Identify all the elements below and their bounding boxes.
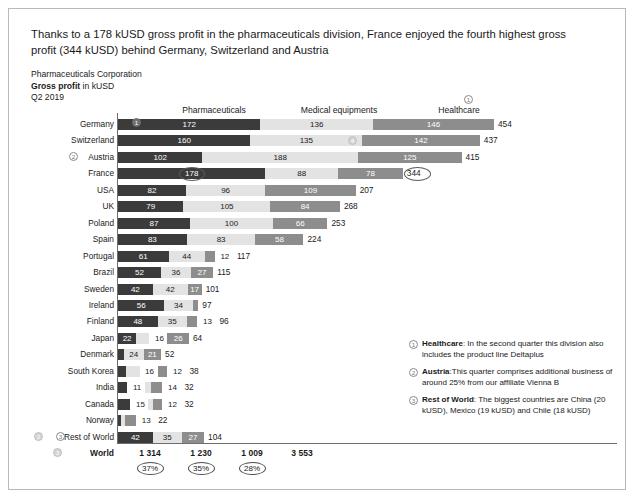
row-label-portugal: Portugal	[14, 251, 114, 262]
footnote-marker-3[interactable]: 3	[53, 448, 62, 457]
table-row: Portugal614412117	[9, 251, 627, 262]
world-row-label: World	[64, 447, 114, 459]
summary-separator-line	[117, 443, 617, 444]
footnote-title: Healthcare	[422, 339, 463, 348]
row-label-spain: Spain	[14, 234, 114, 245]
row-label-india: India	[14, 382, 114, 393]
segment-healthcare: 125	[358, 152, 462, 163]
world-total-pharmaceuticals: 1 314	[126, 447, 174, 459]
segment-medical-equipments	[136, 333, 149, 344]
table-row: USA8296109207	[9, 185, 627, 196]
segment-pharmaceuticals	[118, 366, 126, 377]
row-total: 64	[193, 333, 202, 344]
segment-value-label: 12	[169, 366, 185, 377]
segment-medical-equipments: 83	[187, 234, 256, 245]
row-total: 207	[360, 185, 374, 196]
row-label-france: France	[14, 168, 114, 179]
row-label-canada: Canada	[14, 399, 114, 410]
segment-healthcare	[151, 382, 163, 393]
row-total: 437	[484, 135, 498, 146]
segment-pharmaceuticals: 56	[118, 300, 164, 311]
segment-medical-equipments	[126, 366, 139, 377]
row-total: 268	[344, 201, 358, 212]
row-label-brazil: Brazil	[14, 267, 114, 278]
segment-healthcare: 78	[338, 168, 403, 179]
world-total-medical-equipments: 1 230	[177, 447, 225, 459]
segment-medical-equipments: 42	[153, 284, 188, 295]
segment-healthcare	[205, 251, 215, 262]
column-title-2: Medical equipments	[264, 105, 414, 115]
row-label-south-korea: South Korea	[14, 366, 114, 377]
segment-healthcare: 146	[373, 119, 494, 130]
world-grand-total: 3 553	[278, 447, 326, 459]
segment-pharmaceuticals	[118, 399, 130, 410]
table-row: Rest of World423527104	[9, 432, 627, 443]
row-total: 32	[184, 382, 193, 393]
segment-pharmaceuticals: 160	[118, 135, 250, 146]
row-total: 32	[184, 399, 193, 410]
row-total: 38	[189, 366, 198, 377]
segment-medical-equipments: 188	[202, 152, 358, 163]
segment-value-label: 13	[199, 316, 215, 327]
footnote-marker-1[interactable]: 1	[464, 95, 473, 104]
segment-medical-equipments: 35	[158, 316, 187, 327]
footnote-list: 1Healthcare: In the second quarter this …	[409, 339, 614, 424]
row-label-denmark: Denmark	[14, 349, 114, 360]
segment-medical-equipments: 88	[265, 168, 338, 179]
table-row: Ireland563497	[9, 300, 627, 311]
row-total: 22	[158, 415, 167, 426]
footnote-marker-1[interactable]: 1	[132, 118, 141, 127]
segment-medical-equipments: 135	[250, 135, 362, 146]
segment-healthcare: 142	[362, 135, 480, 146]
row-total: 104	[208, 432, 222, 443]
row-total: 96	[219, 316, 228, 327]
row-label-sweden: Sweden	[14, 284, 114, 295]
row-total: 101	[206, 284, 220, 295]
segment-healthcare	[153, 399, 163, 410]
table-row: Switzerland160135142437	[9, 135, 627, 146]
segment-pharmaceuticals: 83	[118, 234, 187, 245]
segment-pharmaceuticals: 61	[118, 251, 169, 262]
segment-medical-equipments: 24	[124, 349, 144, 360]
footnote-title: Rest of World	[422, 395, 474, 404]
footnote-title: Austria	[422, 367, 450, 376]
row-total: 454	[498, 119, 512, 130]
footnote-text: :This quarter comprises additional busin…	[422, 367, 612, 387]
segment-value-label: 11	[129, 382, 145, 393]
table-row: Brazil523627115	[9, 267, 627, 278]
segment-pharmaceuticals: 102	[118, 152, 202, 163]
segment-pharmaceuticals: 82	[118, 185, 186, 196]
segment-medical-equipments: 34	[164, 300, 192, 311]
segment-pharmaceuticals: 42	[118, 432, 153, 443]
row-label-germany: Germany	[14, 119, 114, 130]
world-share-label: 28%	[228, 463, 276, 475]
row-label-norway: Norway	[14, 415, 114, 426]
row-label-japan: Japan	[14, 333, 114, 344]
segment-pharmaceuticals: 42	[118, 284, 153, 295]
table-row: Sweden424217101	[9, 284, 627, 295]
segment-pharmaceuticals: 52	[118, 267, 161, 278]
segment-healthcare: 27	[191, 267, 213, 278]
segment-value-label: 12	[164, 399, 180, 410]
world-share-label: 37%	[126, 463, 174, 475]
footnote-marker-3[interactable]: 3	[56, 432, 65, 441]
segment-healthcare: 66	[273, 218, 328, 229]
segment-healthcare: 58	[255, 234, 303, 245]
footnote-item: 1Healthcare: In the second quarter this …	[409, 339, 614, 360]
column-title-3: Healthcare	[394, 105, 524, 115]
segment-pharmaceuticals: 79	[118, 201, 183, 212]
row-label-switzerland: Switzerland	[14, 135, 114, 146]
table-row: France1788878344	[9, 168, 627, 179]
footnote-marker-2: 2	[409, 368, 418, 377]
footnote-marker-1: 1	[409, 340, 418, 349]
table-row: Spain838358224	[9, 234, 627, 245]
footnote-item: 2Austria:This quarter comprises addition…	[409, 367, 614, 388]
segment-healthcare: 84	[270, 201, 340, 212]
row-total: 224	[307, 234, 321, 245]
segment-pharmaceuticals: 87	[118, 218, 190, 229]
segment-value-label: 14	[164, 382, 180, 393]
row-total: 117	[237, 251, 250, 262]
footnote-item: 3Rest of World: The biggest countries ar…	[409, 395, 614, 416]
world-share-label: 35%	[177, 463, 225, 475]
footnote-marker-2[interactable]: 2	[34, 432, 43, 441]
